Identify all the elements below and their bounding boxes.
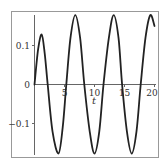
x-tick-label-15: 15 xyxy=(119,88,131,98)
x-tick-label-20: 20 xyxy=(146,88,158,98)
y-tick-label-0.1: 0.1 xyxy=(16,41,30,51)
chart: 0.1 0 −0.1 5 10 15 20 t xyxy=(0,0,166,166)
y-tick-label-0: 0 xyxy=(24,80,30,90)
y-tick-label-neg-0.1: −0.1 xyxy=(8,119,30,129)
